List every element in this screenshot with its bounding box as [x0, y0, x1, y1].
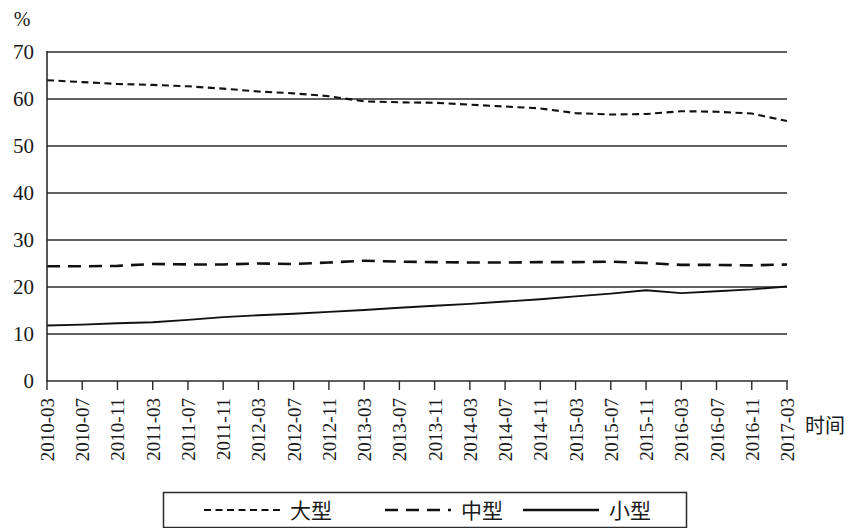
- y-axis-tick-labels: 010203040506070: [13, 40, 34, 393]
- x-axis-tick-label: 2015-03: [566, 398, 587, 461]
- y-axis-unit-label: %: [14, 8, 31, 30]
- line-chart: 010203040506070 2010-032010-072010-11201…: [0, 0, 849, 528]
- chart-container: 010203040506070 2010-032010-072010-11201…: [0, 0, 849, 528]
- x-axis-tick-label: 2016-11: [742, 398, 763, 461]
- x-axis-tick-label: 2013-03: [354, 398, 375, 461]
- x-axis-tick-label: 2014-03: [460, 398, 481, 461]
- x-axis-tick-label: 2012-07: [284, 398, 305, 461]
- x-axis-title: 时间: [805, 415, 845, 437]
- x-axis-tick-label: 2017-03: [777, 398, 798, 461]
- x-axis-tick-label: 2010-07: [72, 398, 93, 461]
- x-axis-tick-label: 2011-07: [178, 398, 199, 461]
- y-axis-tick-label: 30: [13, 228, 34, 252]
- x-axis-tick-label: 2013-11: [425, 398, 446, 461]
- x-axis-tick-label: 2014-11: [530, 398, 551, 461]
- x-axis-tick-label: 2011-03: [143, 398, 164, 461]
- y-axis-tick-label: 10: [13, 322, 34, 346]
- legend-label-中型: 中型: [461, 499, 503, 523]
- x-axis-tick-labels: 2010-032010-072010-112011-032011-072011-…: [37, 398, 798, 461]
- series-line-中型: [47, 261, 787, 267]
- y-axis-tick-label: 60: [13, 87, 34, 111]
- x-axis-tick-label: 2011-11: [213, 398, 234, 460]
- gridlines: [47, 52, 787, 334]
- x-axis-tick-label: 2010-03: [37, 398, 58, 461]
- x-axis-tick-label: 2012-03: [248, 398, 269, 461]
- y-axis-tick-label: 50: [13, 134, 34, 158]
- x-axis-tick-label: 2012-11: [319, 398, 340, 461]
- data-series-group: [47, 80, 787, 325]
- y-axis-tick-label: 20: [13, 275, 34, 299]
- series-line-大型: [47, 80, 787, 121]
- y-axis-tick-label: 70: [13, 40, 34, 64]
- x-axis-tick-label: 2013-07: [389, 398, 410, 461]
- x-axis-tick-label: 2010-11: [107, 398, 128, 461]
- y-axis-tick-label: 0: [24, 369, 35, 393]
- chart-legend: 大型中型小型: [164, 493, 687, 528]
- x-axis-tick-label: 2015-07: [601, 398, 622, 461]
- x-axis-tick-marks: [47, 381, 787, 390]
- y-axis-tick-label: 40: [13, 181, 34, 205]
- series-line-小型: [47, 287, 787, 326]
- x-axis-tick-label: 2015-11: [636, 398, 657, 461]
- x-axis-tick-label: 2016-07: [707, 398, 728, 461]
- x-axis-tick-label: 2014-07: [495, 398, 516, 461]
- legend-label-大型: 大型: [290, 499, 332, 523]
- legend-label-小型: 小型: [609, 499, 651, 523]
- x-axis-tick-label: 2016-03: [671, 398, 692, 461]
